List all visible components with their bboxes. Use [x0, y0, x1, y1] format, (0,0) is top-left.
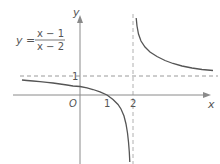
equation-lhs: y =	[15, 34, 35, 47]
equation-denominator: x − 2	[37, 41, 64, 52]
curve-right-branch	[136, 18, 213, 71]
function-graph: y = x − 1 x − 2 y x O 1 1 2	[0, 0, 220, 164]
y-tick-label-1: 1	[72, 71, 78, 82]
x-tick-label-2: 2	[130, 98, 136, 109]
y-axis-label: y	[72, 6, 80, 19]
x-tick-label-1: 1	[104, 98, 110, 109]
origin-label: O	[69, 98, 77, 109]
curve-left-branch	[22, 80, 130, 162]
equation-numerator: x − 1	[37, 28, 64, 39]
x-axis-label: x	[207, 98, 215, 111]
